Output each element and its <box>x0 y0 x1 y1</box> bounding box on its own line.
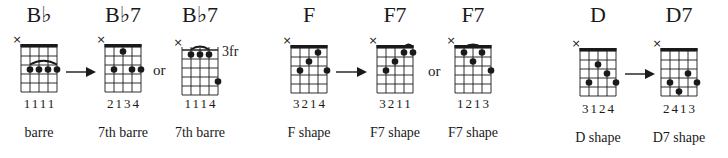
nut <box>377 45 414 48</box>
finger-dot <box>120 48 127 55</box>
finger-dot <box>36 66 43 73</box>
chord-diagram: × <box>12 33 60 92</box>
chord-diagram: × <box>652 37 700 96</box>
muted-string-icon: × <box>12 33 21 46</box>
finger-dot <box>45 66 52 73</box>
chord-diagram: × <box>282 34 330 93</box>
chord-title: B♭7 <box>182 2 218 28</box>
finger-dot <box>685 70 692 77</box>
chord-title: B♭ <box>26 2 51 28</box>
muted-string-icon: × <box>173 36 182 49</box>
chord-title: F <box>303 2 315 28</box>
finger-dot <box>470 58 477 65</box>
finger-dot <box>694 79 701 86</box>
muted-string-icon: × <box>446 34 455 47</box>
fret-position-label: 3fr <box>222 44 238 60</box>
finger-dot <box>595 61 602 68</box>
nut <box>455 45 492 48</box>
chord-diagram: × <box>446 34 494 93</box>
finger-dot <box>138 66 145 73</box>
finger-dot <box>297 67 304 74</box>
arrow-icon <box>336 67 367 77</box>
chord-diagram: × <box>173 36 221 95</box>
chord-title: D <box>590 2 606 28</box>
finger-dot <box>111 66 118 73</box>
finger-numbers: 1114 <box>184 96 217 112</box>
chord-title: B♭7 <box>105 2 141 28</box>
nut <box>105 44 142 47</box>
finger-dot <box>676 88 683 95</box>
chord-title: D7 <box>666 2 693 28</box>
muted-string-icon: × <box>96 33 105 46</box>
shape-label: 7th barre <box>175 125 225 141</box>
finger-dot <box>401 49 408 56</box>
shape-label: F shape <box>287 125 330 141</box>
finger-dot <box>206 51 213 58</box>
finger-dot <box>604 70 611 77</box>
finger-dot <box>392 58 399 65</box>
shape-label: barre <box>25 125 54 141</box>
muted-string-icon: × <box>571 37 580 50</box>
nut <box>580 48 617 51</box>
finger-dot <box>215 78 222 85</box>
or-label: or <box>153 62 166 79</box>
chord-diagram: × <box>368 34 416 93</box>
finger-numbers: 2134 <box>107 96 141 112</box>
shape-label: 7th barre <box>98 125 148 141</box>
finger-dot <box>54 66 61 73</box>
finger-dot <box>324 67 331 74</box>
muted-string-icon: × <box>652 37 661 50</box>
finger-dot <box>188 51 195 58</box>
nut <box>291 45 328 48</box>
shape-label: F7 shape <box>370 125 420 141</box>
muted-string-icon: × <box>368 34 377 47</box>
shape-label: D7 shape <box>653 130 706 146</box>
nut <box>21 44 58 47</box>
finger-numbers: 3211 <box>379 96 413 112</box>
finger-dot <box>586 79 593 86</box>
chord-diagram: × <box>96 33 144 92</box>
finger-dot <box>315 49 322 56</box>
finger-dot <box>129 66 136 73</box>
chord-diagram: × <box>571 37 619 96</box>
chord-title: F7 <box>461 2 484 28</box>
finger-numbers: 1213 <box>457 96 491 112</box>
muted-string-icon: × <box>282 34 291 47</box>
finger-numbers: 3124 <box>582 101 616 117</box>
arrow-icon <box>625 69 655 79</box>
chord-title: F7 <box>383 2 406 28</box>
finger-dot <box>27 66 34 73</box>
finger-dot <box>613 79 620 86</box>
shape-label: F7 shape <box>448 125 498 141</box>
barre-arc <box>30 61 57 65</box>
finger-dot <box>383 67 390 74</box>
finger-dot <box>197 51 204 58</box>
nut <box>661 48 698 51</box>
finger-dot <box>667 79 674 86</box>
arrow-icon <box>66 67 96 77</box>
finger-numbers: 3214 <box>293 96 327 112</box>
finger-numbers: 2413 <box>663 101 697 117</box>
finger-dot <box>479 49 486 56</box>
finger-dot <box>306 58 313 65</box>
or-label: or <box>428 63 441 80</box>
finger-dot <box>461 49 468 56</box>
finger-numbers: 1111 <box>24 96 57 112</box>
finger-dot <box>410 49 417 56</box>
shape-label: D shape <box>575 130 621 146</box>
finger-dot <box>488 67 495 74</box>
